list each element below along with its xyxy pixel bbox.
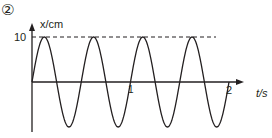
x-axis-label: t/s [256,88,268,99]
x-tick-1: 1 [128,85,134,95]
x-axis-arrow-icon [236,79,244,85]
x-tick-2: 2 [226,85,232,96]
y-tick-10: 10 [14,32,26,43]
y-axis-label: x/cm [40,19,63,30]
y-axis-arrow-icon [29,23,35,31]
